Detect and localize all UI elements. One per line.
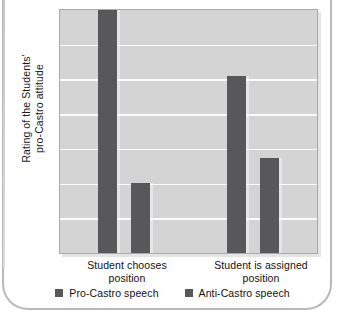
legend-item: Anti-Castro speech <box>185 287 290 299</box>
x-axis-category-label-line2: position <box>196 272 326 285</box>
x-axis-category-label: Student is assigned position <box>196 259 326 285</box>
plot-area <box>59 9 318 254</box>
bar <box>98 10 117 253</box>
y-axis-label-line1: Rating of the Students' <box>20 24 33 194</box>
y-axis-label: Rating of the Students' pro-Castro attit… <box>20 24 45 194</box>
x-axis-category-label-line1: Student chooses <box>62 259 192 272</box>
legend-label: Pro-Castro speech <box>69 287 158 299</box>
legend-swatch-icon <box>55 289 63 297</box>
bar <box>227 76 246 253</box>
bar-chart-figure: Rating of the Students' pro-Castro attit… <box>0 0 345 327</box>
x-axis-category-label-line1: Student is assigned <box>196 259 326 272</box>
legend-label: Anti-Castro speech <box>199 287 290 299</box>
legend-item: Pro-Castro speech <box>55 287 158 299</box>
x-axis-category-label-line2: position <box>62 272 192 285</box>
bar <box>260 158 279 253</box>
chart-legend: Pro-Castro speechAnti-Castro speech <box>0 287 345 299</box>
bar-series-group <box>60 10 317 253</box>
bar <box>131 183 150 253</box>
y-axis-label-line2: pro-Castro attitude <box>32 24 45 194</box>
x-axis-category-label: Student chooses position <box>62 259 192 285</box>
legend-swatch-icon <box>185 289 193 297</box>
